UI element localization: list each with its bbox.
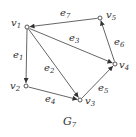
node-label-v2: v2: [10, 80, 21, 93]
directed-graph-g7: v1 v2 v3 v4 v5 e1 e2 e3 e4 e5 e6 e7 G7: [0, 0, 136, 137]
edge-e7: [30, 18, 98, 26]
edge-e6: [101, 21, 115, 62]
node-v4: [113, 62, 117, 66]
edge-label-e2: e2: [44, 62, 55, 75]
graph-caption: G7: [63, 115, 77, 129]
node-v1: [25, 25, 29, 29]
node-v3: [78, 98, 82, 102]
node-v2: [24, 84, 28, 88]
edge-label-e7: e7: [60, 7, 71, 20]
edge-label-e6: e6: [114, 36, 125, 49]
node-label-v1: v1: [11, 17, 21, 30]
edge-label-e4: e4: [45, 93, 55, 106]
edge-label-e1: e1: [13, 49, 23, 62]
node-v5: [98, 16, 102, 20]
edge-label-e3: e3: [69, 32, 80, 45]
node-label-v5: v5: [106, 9, 117, 22]
edge-label-e5: e5: [98, 82, 109, 95]
edge-e1: [26, 29, 27, 83]
node-label-v4: v4: [119, 59, 129, 72]
node-label-v3: v3: [85, 95, 96, 108]
